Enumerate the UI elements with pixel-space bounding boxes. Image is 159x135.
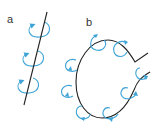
circulation-arrow-icon [91, 36, 106, 50]
diagram-canvas [0, 0, 159, 135]
panel-b-loops [62, 36, 147, 119]
panel-a-loops [18, 22, 50, 93]
circulation-arrow-icon [23, 51, 44, 66]
circulation-arrow-icon [29, 22, 50, 37]
